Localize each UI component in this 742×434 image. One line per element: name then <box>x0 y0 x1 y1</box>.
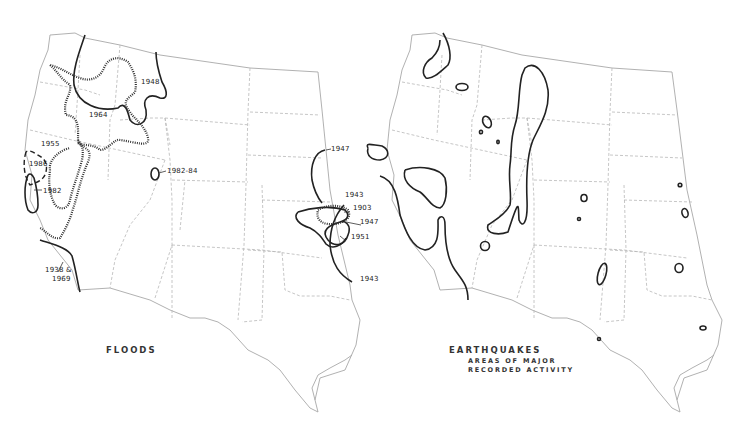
label-1948: 1948 <box>141 78 160 86</box>
label-1964: 1964 <box>89 111 108 119</box>
label-1938-1969-line2: 1969 <box>52 275 71 283</box>
hazard-maps <box>0 0 742 434</box>
label-1982: 1982 <box>43 187 62 195</box>
floods-title: FLOODS <box>106 345 157 355</box>
flood-zones <box>24 35 361 292</box>
label-1951: 1951 <box>351 233 370 241</box>
label-1938-1969-line1: 1938 & <box>45 266 72 274</box>
label-1955: 1955 <box>41 140 60 148</box>
earthquake-zones <box>367 33 706 341</box>
label-1947-top: 1947 <box>331 145 350 153</box>
earthquakes-title: EARTHQUAKES <box>449 345 541 355</box>
label-1943-bottom: 1943 <box>360 275 379 283</box>
label-1947-mid: 1947 <box>360 218 379 226</box>
label-1982-84: 1982-84 <box>167 167 198 175</box>
label-1986: 1986 <box>29 160 48 168</box>
earthquakes-subtitle-line1: AREAS OF MAJOR <box>468 357 556 366</box>
label-1903: 1903 <box>353 204 372 212</box>
earthquakes-subtitle-line2: RECORDED ACTIVITY <box>468 366 574 375</box>
label-1943-top: 1943 <box>345 191 364 199</box>
